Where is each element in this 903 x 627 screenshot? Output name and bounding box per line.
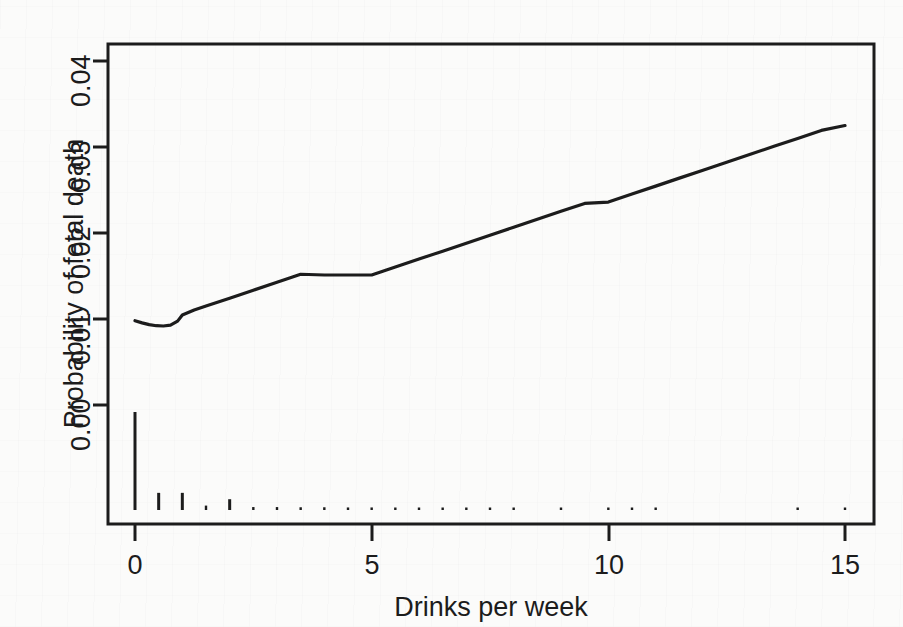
plot-frame-box [108, 44, 874, 524]
plot-canvas [0, 0, 903, 627]
x-tick-label-15: 15 [815, 552, 875, 579]
data-density-rug [135, 412, 845, 510]
x-axis-ticks [135, 524, 845, 541]
x-tick-label-0: 0 [105, 552, 165, 579]
x-axis-title: Drinks per week [291, 594, 691, 621]
x-tick-label-5: 5 [342, 552, 402, 579]
y-axis-title: Probability of fetal death [61, 84, 88, 484]
fitted-probability-curve [135, 126, 845, 326]
x-tick-label-10: 10 [579, 552, 639, 579]
chart-figure: 0.04 0.03 0.02 0.01 0.00 0 5 10 15 Drink… [0, 0, 903, 627]
